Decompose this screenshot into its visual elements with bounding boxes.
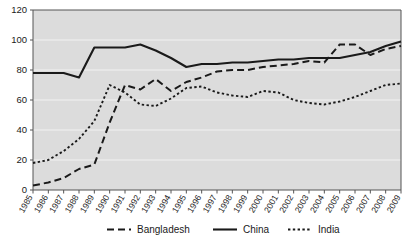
x-tick-label: 2005 xyxy=(323,193,341,215)
legend-label-bangladesh: Bangladesh xyxy=(137,224,190,235)
y-tick-label: 60 xyxy=(16,94,27,105)
x-tick-label: 1991 xyxy=(109,193,127,215)
x-tick-label: 1985 xyxy=(17,193,35,215)
x-tick-label: 1996 xyxy=(185,193,203,215)
x-tick-label: 1999 xyxy=(231,193,249,215)
chart-legend: BangladeshChinaIndia xyxy=(107,224,340,235)
x-axis-tick-labels: 1985198619871988198919901991199219931994… xyxy=(17,193,403,215)
x-tick-label: 1993 xyxy=(139,193,157,215)
legend-label-china: China xyxy=(243,224,270,235)
x-tick-label: 2009 xyxy=(385,193,403,215)
x-tick-label: 2002 xyxy=(277,193,295,215)
y-tick-label: 80 xyxy=(16,64,27,75)
y-tick-label: 120 xyxy=(11,4,27,15)
x-tick-label: 1990 xyxy=(93,193,111,215)
x-tick-label: 2008 xyxy=(369,193,387,215)
y-tick-label: 100 xyxy=(11,34,27,45)
x-tick-label: 1989 xyxy=(78,193,96,215)
y-axis-tick-labels: 020406080100120 xyxy=(11,4,27,195)
x-tick-label: 1994 xyxy=(155,193,173,215)
x-tick-label: 2004 xyxy=(308,193,326,215)
x-axis-ticks xyxy=(33,190,401,194)
x-tick-label: 1997 xyxy=(201,193,219,215)
x-tick-label: 1998 xyxy=(216,193,234,215)
x-tick-label: 2003 xyxy=(293,193,311,215)
x-tick-label: 2000 xyxy=(247,193,265,215)
x-tick-label: 1992 xyxy=(124,193,142,215)
x-tick-label: 1987 xyxy=(47,193,65,215)
legend-label-india: India xyxy=(318,224,340,235)
x-tick-label: 1995 xyxy=(170,193,188,215)
x-tick-label: 1986 xyxy=(32,193,50,215)
x-tick-label: 2001 xyxy=(262,193,280,215)
x-tick-label: 2007 xyxy=(354,193,372,215)
x-tick-label: 2006 xyxy=(339,193,357,215)
y-tick-label: 20 xyxy=(16,154,27,165)
y-tick-label: 40 xyxy=(16,124,27,135)
chart-container: 020406080100120 198519861987198819891990… xyxy=(0,0,412,244)
line-chart: 020406080100120 198519861987198819891990… xyxy=(0,0,412,244)
x-tick-label: 1988 xyxy=(63,193,81,215)
